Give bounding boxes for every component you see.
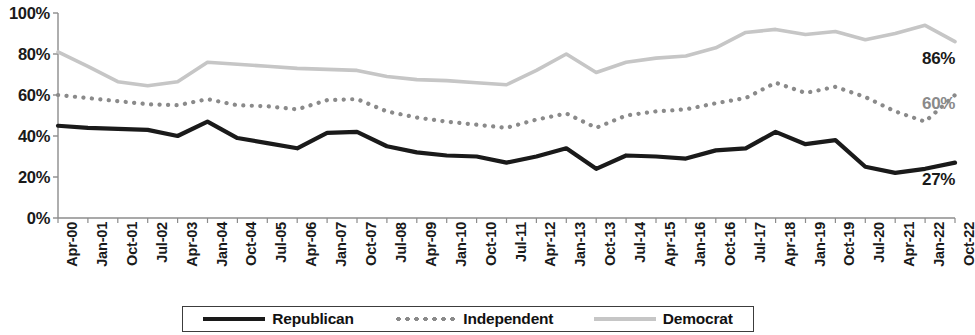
x-axis-tick-label: Apr-06 — [303, 222, 319, 267]
y-axis-tick-label: 60% — [18, 86, 50, 105]
x-axis-tick-label: Jul-17 — [752, 222, 768, 263]
x-axis-tick-label: Oct-22 — [961, 222, 975, 266]
y-axis-tick-label: 40% — [18, 127, 50, 146]
legend-item-independent[interactable]: Independent — [394, 310, 553, 328]
x-axis-tick-label: Jan-16 — [692, 222, 708, 267]
x-axis-tick-label: Oct-01 — [124, 222, 140, 266]
legend-label: Independent — [463, 310, 553, 328]
y-axis-tick-label: 100% — [9, 4, 50, 23]
legend-item-democrat[interactable]: Democrat — [594, 310, 733, 328]
line-chart: 100%80%60%40%20%0% Apr-00Jan-01Oct-01Jul… — [0, 0, 975, 335]
x-axis-tick-label: Oct-19 — [841, 222, 857, 266]
x-axis-tick-label: Oct-16 — [722, 222, 738, 266]
end-value-label-republican: 27% — [922, 170, 955, 190]
legend-item-republican[interactable]: Republican — [203, 310, 354, 328]
y-axis-tick-label: 80% — [18, 45, 50, 64]
end-value-label-independent: 60% — [922, 94, 955, 114]
legend-label: Democrat — [663, 310, 733, 328]
series-line-republican — [58, 122, 955, 173]
x-axis-tick-label: Jan-13 — [572, 222, 588, 267]
legend-swatch-democrat-icon — [594, 317, 656, 322]
x-axis-tick-label: Apr-03 — [184, 222, 200, 267]
x-axis-tick-label: Jan-01 — [94, 222, 110, 267]
plot-svg — [58, 13, 955, 218]
x-axis-tick-label: Jul-11 — [513, 222, 529, 262]
x-axis-tick-label: Apr-15 — [662, 222, 678, 267]
x-axis-tick-label: Apr-12 — [542, 222, 558, 267]
x-axis-tick-label: Jan-10 — [453, 222, 469, 267]
x-axis-tick-label: Apr-18 — [782, 222, 798, 267]
x-axis-tick-label: Jul-05 — [273, 222, 289, 263]
x-axis-tick-label: Jan-04 — [214, 222, 230, 267]
x-axis-tick-label: Jul-08 — [393, 222, 409, 263]
plot-area — [58, 13, 955, 218]
x-axis-tick-label: Apr-00 — [64, 222, 80, 267]
legend-label: Republican — [272, 310, 354, 328]
x-axis-tick-label: Oct-13 — [602, 222, 618, 266]
legend-swatch-republican-icon — [203, 317, 265, 322]
x-axis-tick-label: Jan-22 — [931, 222, 947, 267]
x-axis-tick-label: Jul-14 — [632, 222, 648, 263]
x-axis-tick-label: Oct-07 — [363, 222, 379, 266]
x-axis-tick-label: Oct-10 — [483, 222, 499, 266]
x-axis-tick-label: Jul-02 — [154, 222, 170, 263]
x-axis-tick-label: Jul-20 — [871, 222, 887, 263]
x-axis-tick-label: Oct-04 — [243, 222, 259, 266]
end-value-label-democrat: 86% — [922, 49, 955, 69]
y-axis-tick-label: 20% — [18, 168, 50, 187]
series-line-independent — [58, 83, 955, 128]
x-axis: Apr-00Jan-01Oct-01Jul-02Apr-03Jan-04Oct-… — [0, 222, 975, 292]
x-axis-tick-label: Apr-21 — [901, 222, 917, 267]
x-axis-tick-label: Jan-07 — [333, 222, 349, 267]
series-line-democrat — [58, 25, 955, 85]
legend-swatch-independent-icon — [394, 317, 456, 321]
chart-legend: RepublicanIndependentDemocrat — [182, 306, 754, 332]
x-axis-tick-label: Jan-19 — [812, 222, 828, 267]
x-axis-tick-label: Apr-09 — [423, 222, 439, 267]
